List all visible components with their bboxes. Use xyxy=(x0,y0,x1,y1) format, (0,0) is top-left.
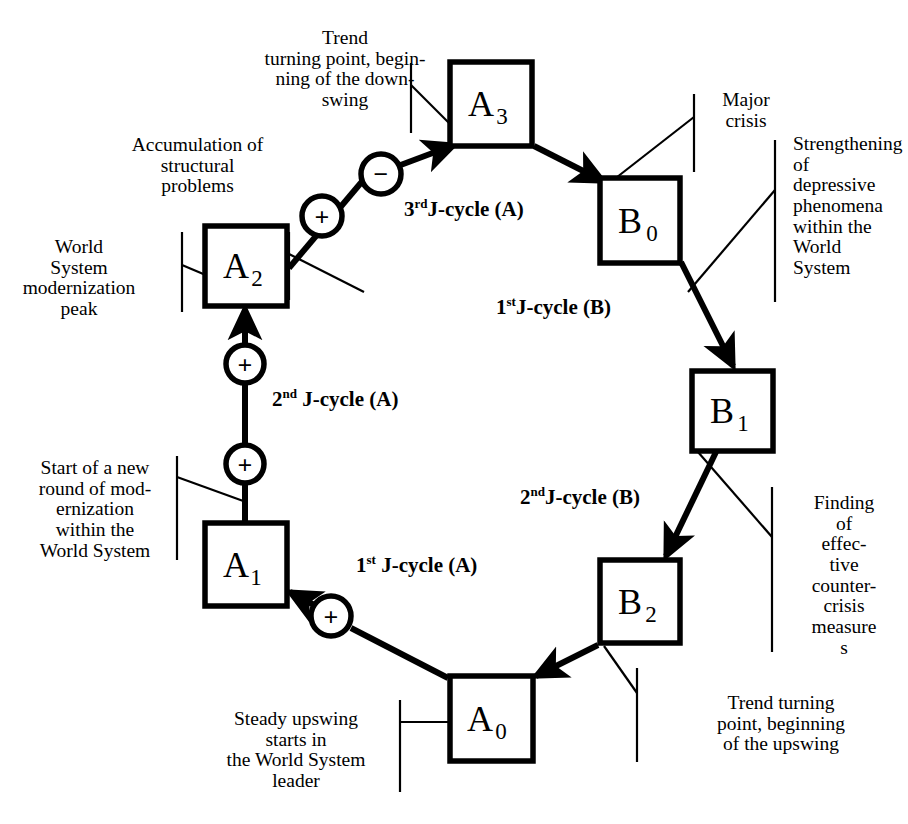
node-A1-sub: 1 xyxy=(250,565,262,590)
cycle-label-2nd-j-cycle-a: 2nd J-cycle (A) xyxy=(272,386,398,412)
cycle-1sta-ordinal: 1 xyxy=(356,553,367,577)
leader-line-accumulation xyxy=(289,232,364,300)
annotation-world-system-peak: World System modernization peak xyxy=(8,237,150,320)
node-A2[interactable]: A 2 xyxy=(205,226,287,306)
cycle-1sta-suffix: st xyxy=(367,552,376,567)
svg-text:+: + xyxy=(238,451,253,480)
leader-line-finding xyxy=(698,452,772,652)
node-A2-base: A xyxy=(223,246,249,286)
node-B1[interactable]: B 1 xyxy=(692,371,773,451)
operator-plus-lower-left: + xyxy=(226,445,264,483)
svg-text:+: + xyxy=(324,603,339,632)
node-A3-base: A xyxy=(468,84,494,124)
node-A0[interactable]: A 0 xyxy=(450,676,533,761)
leader-line-major-crisis xyxy=(612,94,694,181)
cycle-3rd-text: J-cycle (A) xyxy=(428,197,524,221)
annotation-major-crisis: Major crisis xyxy=(700,90,792,131)
node-A0-base: A xyxy=(467,699,493,739)
leader-line-trend-upswing xyxy=(604,646,637,762)
diagram-canvas: − + + + + A 3 xyxy=(0,0,908,824)
cycle-2nda-suffix: nd xyxy=(283,386,297,401)
cycle-1stb-suffix: st xyxy=(507,294,516,309)
operator-minus-into-a3: − xyxy=(361,154,401,194)
node-A0-sub: 0 xyxy=(495,719,507,744)
leader-line-steady-upswing xyxy=(400,700,452,792)
cycle-2ndb-ordinal: 2 xyxy=(520,485,531,509)
node-B0[interactable]: B 0 xyxy=(600,178,680,263)
node-A3-sub: 3 xyxy=(496,104,508,129)
cycle-3rd-suffix: rd xyxy=(415,196,428,211)
cycle-2ndb-text: J-cycle (B) xyxy=(545,485,640,509)
annotation-trend-downswing: Trend turning point, begin- ning of the … xyxy=(225,28,465,111)
node-B2-sub: 2 xyxy=(645,602,657,627)
node-B0-base: B xyxy=(618,201,642,241)
cycle-1sta-text: J-cycle (A) xyxy=(376,553,477,577)
cycle-1stb-text: J-cycle (B) xyxy=(516,295,611,319)
arrow-b1-to-b2 xyxy=(666,452,716,556)
cycle-label-1st-j-cycle-b: 1stJ-cycle (B) xyxy=(496,294,611,320)
node-B2[interactable]: B 2 xyxy=(600,560,680,643)
cycle-1stb-ordinal: 1 xyxy=(496,295,507,319)
arrow-minus-to-a3 xyxy=(398,145,454,166)
cycle-3rd-ordinal: 3 xyxy=(404,197,415,221)
annotation-steady-upswing: Steady upswing starts in the World Syste… xyxy=(200,709,392,792)
svg-text:−: − xyxy=(374,160,389,189)
arrow-b2-to-a0 xyxy=(536,645,598,676)
operator-plus-upper-left: + xyxy=(226,345,264,383)
annotation-trend-upswing: Trend turning point, beginning of the up… xyxy=(680,693,882,755)
node-B1-base: B xyxy=(710,391,734,431)
cycle-label-2nd-j-cycle-b: 2ndJ-cycle (B) xyxy=(520,484,640,510)
arrow-b0-to-b1 xyxy=(681,262,733,366)
operator-plus-into-a1: + xyxy=(311,596,351,636)
cycle-2ndb-suffix: nd xyxy=(531,484,545,499)
node-B1-sub: 1 xyxy=(737,411,749,436)
node-A2-sub: 2 xyxy=(251,266,263,291)
operator-plus-from-a2: + xyxy=(302,196,342,236)
arrow-a0-to-plus-a1 xyxy=(351,628,448,678)
annotation-strengthening: Strengthening of depressive phenomena wi… xyxy=(793,134,905,279)
leader-line-strengthening xyxy=(688,140,775,302)
node-A1-base: A xyxy=(223,545,249,585)
cycle-label-1st-j-cycle-a: 1st J-cycle (A) xyxy=(356,552,477,578)
node-B2-base: B xyxy=(618,582,642,622)
annotation-accumulation: Accumulation of structural problems xyxy=(105,135,290,197)
arrow-a3-to-b0 xyxy=(534,146,603,181)
svg-text:+: + xyxy=(315,203,330,232)
annotation-start-new-round: Start of a new round of mod- ernization … xyxy=(22,458,168,561)
node-B0-sub: 0 xyxy=(646,221,658,246)
svg-text:+: + xyxy=(238,351,253,380)
cycle-2nda-text: J-cycle (A) xyxy=(297,387,398,411)
annotation-finding-measures: Finding of effec- tive counter- crisis m… xyxy=(790,493,898,658)
cycle-2nda-ordinal: 2 xyxy=(272,387,283,411)
cycle-label-3rd-j-cycle-a: 3rdJ-cycle (A) xyxy=(404,196,524,222)
node-A1[interactable]: A 1 xyxy=(205,523,287,606)
